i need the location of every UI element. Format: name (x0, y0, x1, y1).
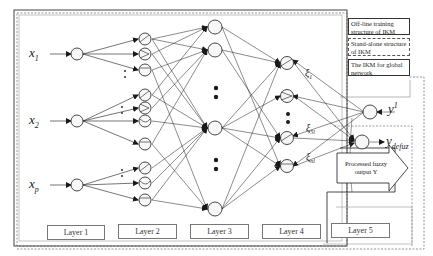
layer5-upper-frame (340, 80, 410, 97)
layer-label-5: Layer 5 (331, 223, 390, 238)
xi-label-5l: ξ5l (306, 122, 315, 135)
connections-l2-l3 (152, 27, 207, 209)
layer-label-1: Layer 1 (47, 225, 105, 240)
inner-frame (19, 15, 342, 241)
input-label-xp: xp (29, 176, 39, 194)
layer3-node (208, 202, 222, 216)
xi-label-1: ξ1 (305, 67, 312, 80)
legend-offline-training: Off-line training structure of IKM (348, 18, 410, 35)
layer2-nodes (139, 33, 151, 206)
processed-output-text: Processed fuzzy output Y (341, 160, 391, 176)
layer1-node (71, 115, 83, 127)
layer-label-2: Layer 2 (118, 224, 177, 239)
layer3-node (208, 43, 222, 57)
legend-global-network: The IKM for global network (348, 59, 410, 76)
output-label-y1: y1 (388, 101, 398, 117)
output-label-ydefuz: ydefuz (386, 133, 409, 151)
input-label-x2: x2 (29, 112, 39, 130)
xi-label-nl: ξnl (306, 151, 315, 164)
layer3-node (208, 20, 222, 34)
input-label-x1: x1 (29, 45, 39, 63)
layer-label-4: Layer 4 (262, 224, 321, 239)
legend-stand-alone: Stand-alone structure of IKM (348, 38, 410, 56)
connections-l3-l4 (222, 27, 280, 209)
layer-label-3: Layer 3 (190, 224, 249, 239)
offline-training-frame (14, 10, 347, 246)
nodes (71, 20, 377, 216)
layer5-y1-node (363, 105, 377, 119)
layer1-node (71, 48, 83, 60)
layer5-defuz-node (355, 135, 369, 149)
layer1-node (71, 179, 83, 191)
layer3-node (208, 121, 222, 135)
connections-l1-l2 (50, 39, 138, 200)
stand-alone-frame (17, 13, 347, 246)
